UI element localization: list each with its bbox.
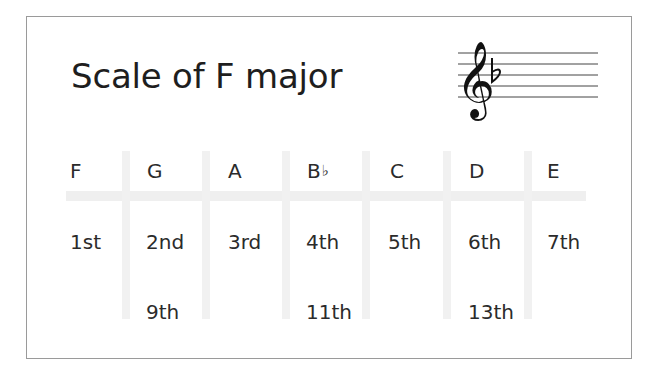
degree-label: 6th bbox=[468, 230, 501, 254]
degree-label: 1st bbox=[70, 230, 101, 254]
header-divider bbox=[66, 191, 586, 201]
degree-label: 3rd bbox=[228, 230, 261, 254]
note-name-D: D bbox=[469, 159, 484, 183]
column-divider bbox=[122, 151, 130, 319]
treble-clef-staff-icon: 𝄞 bbox=[448, 36, 600, 122]
column-divider bbox=[524, 151, 532, 319]
degree-label: 2nd bbox=[146, 230, 184, 254]
degree-label: 9th bbox=[146, 300, 179, 324]
degree-label: 7th bbox=[547, 230, 580, 254]
degree-label: 5th bbox=[388, 230, 421, 254]
column-divider bbox=[443, 151, 451, 319]
degree-label: 4th bbox=[306, 230, 339, 254]
treble-clef-icon: 𝄞 bbox=[456, 41, 495, 121]
note-name-C: C bbox=[390, 159, 404, 183]
column-divider bbox=[282, 151, 290, 319]
note-name-B-flat: B♭ bbox=[307, 159, 329, 183]
flat-icon: ♭ bbox=[322, 162, 329, 180]
note-name-E: E bbox=[547, 159, 560, 183]
degree-label: 11th bbox=[306, 300, 352, 324]
column-divider bbox=[202, 151, 210, 319]
note-name-G: G bbox=[147, 159, 163, 183]
note-name-A: A bbox=[228, 159, 242, 183]
note-name-F: F bbox=[70, 159, 82, 183]
diagram-title: Scale of F major bbox=[71, 54, 342, 98]
degree-label: 13th bbox=[468, 300, 514, 324]
column-divider bbox=[362, 151, 370, 319]
